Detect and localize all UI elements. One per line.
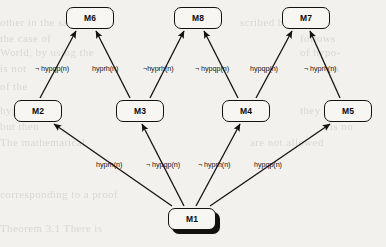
- edge-label-m1-m4: ¬ hyprh(n): [198, 160, 230, 169]
- edge-label-m1-m3: ¬ hypqp(n): [146, 160, 180, 169]
- edge-label-m4-m8: ¬ hypqp(n): [195, 64, 229, 73]
- node-label: M1: [186, 214, 198, 224]
- node-label: M2: [32, 106, 44, 116]
- node-m7[interactable]: M7: [282, 7, 330, 29]
- node-label: M8: [192, 13, 204, 23]
- edge-label-m3-m6: hyprh(n): [92, 64, 118, 73]
- node-label: M5: [342, 106, 354, 116]
- edge-label-m1-m2: hyprh(n): [96, 160, 122, 169]
- edge-label-m3-m8: ¬hyprh(n): [143, 64, 174, 73]
- diagram-canvas: other in the samescribed by thethe case …: [0, 0, 386, 247]
- node-m3[interactable]: M3: [116, 100, 164, 122]
- edge-label-m5-m7: ¬ hyprh(n): [304, 64, 336, 73]
- edge-lines: [40, 31, 340, 206]
- edge-label-m1-m5: hypqp(n): [254, 160, 282, 169]
- node-m4[interactable]: M4: [222, 100, 270, 122]
- node-m2[interactable]: M2: [14, 100, 62, 122]
- node-m1[interactable]: M1: [168, 208, 216, 230]
- edge-label-m4-m7: hypqp(n): [250, 64, 278, 73]
- node-label: M4: [240, 106, 252, 116]
- node-label: M3: [134, 106, 146, 116]
- node-label: M6: [84, 13, 96, 23]
- node-m5[interactable]: M5: [324, 100, 372, 122]
- node-m6[interactable]: M6: [66, 7, 114, 29]
- edge-label-m2-m6: ¬ hypqp(n): [35, 64, 69, 73]
- node-label: M7: [300, 13, 312, 23]
- node-m8[interactable]: M8: [174, 7, 222, 29]
